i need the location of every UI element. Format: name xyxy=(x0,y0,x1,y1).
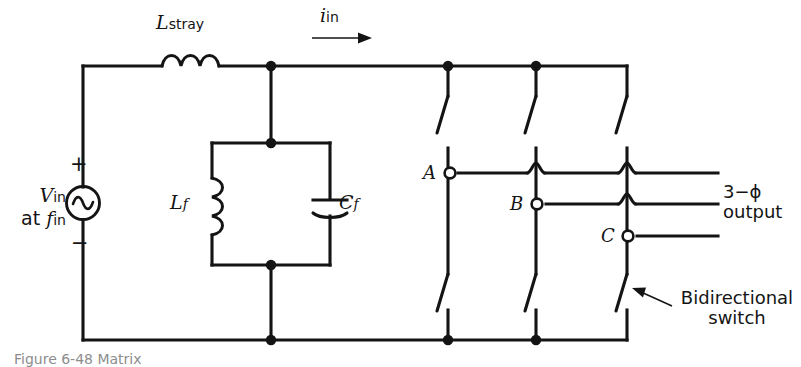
junction-dot-filter-bottom xyxy=(266,260,276,270)
switch-b-lower-blade xyxy=(525,274,536,311)
source-frequency-label: at fin xyxy=(10,208,66,229)
callout-leader-line xyxy=(641,292,672,306)
source-polarity-minus: − xyxy=(71,232,89,256)
switch-c-upper-blade xyxy=(616,96,627,133)
stray-inductor-symbol: L xyxy=(156,11,169,33)
switch-b-upper-blade xyxy=(525,96,536,133)
source-frequency-subscript: in xyxy=(53,212,66,228)
output-label-line2: output xyxy=(723,202,782,222)
filter-inductor-symbol: L xyxy=(170,191,183,213)
phase-label-b: B xyxy=(510,194,523,214)
stray-inductor-label: Lstray xyxy=(156,12,204,33)
current-arrow-head xyxy=(358,33,372,44)
output-label-line1: 3−ϕ xyxy=(723,182,782,202)
source-voltage-symbol: V xyxy=(39,184,53,206)
input-current-subscript: in xyxy=(326,9,339,25)
junction-dot-top-col-a xyxy=(443,61,453,71)
source-polarity-plus: + xyxy=(70,153,88,177)
phase-label-a: A xyxy=(423,163,436,183)
source-frequency-prefix: at xyxy=(21,207,40,229)
callout-arrow-head xyxy=(632,288,646,298)
junction-dot-bottom-col-a xyxy=(443,335,453,345)
output-terminal-b[interactable] xyxy=(532,199,543,210)
junction-dot-bottom-filter xyxy=(266,335,276,345)
switch-c-lower-blade xyxy=(616,274,627,311)
ac-source-sine-icon xyxy=(73,197,93,209)
output-terminal-a[interactable] xyxy=(445,168,456,179)
filter-capacitor-subscript: f xyxy=(354,196,359,212)
switch-a-upper-blade xyxy=(437,96,448,133)
filter-capacitor-label: Cf xyxy=(339,192,359,213)
bidirectional-switch-callout: Bidirectional switch xyxy=(676,288,798,328)
callout-line1: Bidirectional xyxy=(676,288,798,308)
filter-inductor-label: Lf xyxy=(170,192,188,213)
stray-inductor-coils xyxy=(162,56,219,67)
circuit-diagram-figure: Lstray iin Vin at fin + − Lf Cf A B C 3−… xyxy=(0,0,801,367)
stray-inductor-subscript: stray xyxy=(169,16,205,32)
phase-label-c: C xyxy=(601,226,615,246)
callout-line2: switch xyxy=(676,308,798,328)
figure-caption-fragment: Figure 6-48 Matrix xyxy=(14,352,142,367)
switch-a-lower-blade xyxy=(437,274,448,311)
output-terminal-c[interactable] xyxy=(623,231,634,242)
junction-dot-top-filter xyxy=(266,61,276,71)
source-voltage-label: Vin xyxy=(18,185,66,206)
filter-capacitor-symbol: C xyxy=(339,191,354,213)
source-voltage-subscript: in xyxy=(53,189,66,205)
filter-inductor-subscript: f xyxy=(183,196,188,212)
junction-dot-bottom-col-b xyxy=(531,335,541,345)
input-current-label: iin xyxy=(320,5,339,26)
filter-inductor-coils xyxy=(212,178,223,235)
junction-dot-top-col-b xyxy=(531,61,541,71)
junction-dot-filter-top xyxy=(266,138,276,148)
output-label: 3−ϕ output xyxy=(723,182,782,222)
